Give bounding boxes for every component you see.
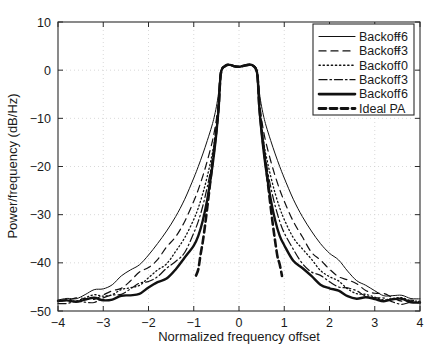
legend-label[interactable]: Backoff bbox=[359, 73, 401, 87]
x-tick-label: 0 bbox=[236, 316, 243, 330]
x-axis-title: Normalized frequency offset bbox=[158, 329, 320, 344]
legend-value[interactable]: 3 bbox=[401, 73, 408, 87]
y-tick-label: −10 bbox=[30, 112, 51, 126]
x-tick-label: −1 bbox=[187, 316, 201, 330]
x-tick-label: 3 bbox=[371, 316, 378, 330]
y-tick-label: 0 bbox=[44, 64, 51, 78]
x-tick-label: −2 bbox=[141, 316, 155, 330]
x-tick-label: 2 bbox=[326, 316, 333, 330]
x-tick-label: −3 bbox=[96, 316, 110, 330]
legend-label[interactable]: Ideal PA bbox=[359, 102, 406, 116]
x-tick-label: 1 bbox=[281, 316, 288, 330]
y-tick-label: −30 bbox=[30, 208, 51, 222]
y-tick-label: −20 bbox=[30, 160, 51, 174]
legend-value[interactable]: 6 bbox=[401, 87, 408, 101]
power-spectral-density-chart: −4−3−2−101234 −50−40−30−20−10010 Normali… bbox=[0, 0, 444, 358]
y-tick-label: −50 bbox=[30, 305, 51, 319]
legend-value[interactable]: −3 bbox=[394, 44, 408, 58]
legend-value[interactable]: 0 bbox=[401, 59, 408, 73]
legend-label[interactable]: Backoff bbox=[359, 59, 401, 73]
legend-label[interactable]: Backoff bbox=[359, 87, 401, 101]
y-axis-title: Power/frequency (dB/Hz) bbox=[5, 93, 20, 238]
legend-value[interactable]: −6 bbox=[394, 30, 408, 44]
y-tick-label: 10 bbox=[37, 16, 51, 30]
x-tick-label: −4 bbox=[51, 316, 65, 330]
y-tick-label: −40 bbox=[30, 256, 51, 270]
x-tick-label: 4 bbox=[417, 316, 424, 330]
legend[interactable]: Backoff−6Backoff−3Backoff0Backoff3Backof… bbox=[313, 24, 414, 116]
